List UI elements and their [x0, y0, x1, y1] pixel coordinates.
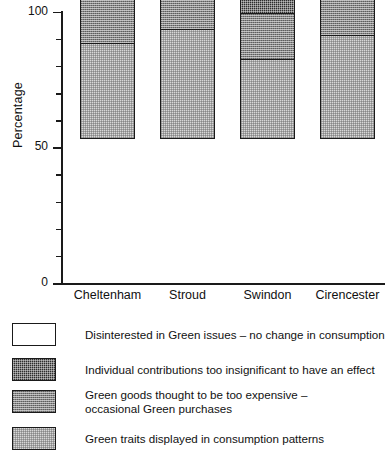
legend-label: Individual contributions too insignifica… [85, 363, 375, 377]
bar-segment-insignificant[interactable] [240, 0, 295, 14]
legend-swatch-mid [12, 390, 56, 413]
legend-swatch-white [12, 323, 56, 346]
bar-segment-green-traits[interactable] [320, 35, 375, 139]
bar-segment-green-traits[interactable] [80, 43, 135, 139]
bar-cheltenham[interactable] [80, 0, 135, 139]
bar-segment-too-expensive[interactable] [320, 0, 375, 36]
legend-label: Green goods thought to be too expensive … [85, 388, 307, 415]
legend-swatch-dark [12, 358, 56, 381]
stacked-bar-chart-figure: Percentage 050100 CheltenhamStroudSwindo… [0, 0, 387, 454]
legend-swatch-light [12, 427, 56, 450]
chart-legend: Disinterested in Green issues – no chang… [0, 310, 387, 454]
bar-stroud[interactable] [160, 0, 215, 139]
x-label-cirencester: Cirencester [293, 288, 387, 302]
bar-segment-too-expensive[interactable] [240, 13, 295, 60]
bar-cirencester[interactable] [320, 0, 375, 139]
plot-area: Percentage 050100 CheltenhamStroudSwindo… [0, 0, 387, 310]
legend-label: Disinterested in Green issues – no chang… [85, 328, 385, 342]
bar-segment-green-traits[interactable] [240, 59, 295, 139]
legend-label: Green traits displayed in consumption pa… [85, 432, 324, 446]
bar-swindon[interactable] [240, 0, 295, 139]
bar-segment-too-expensive[interactable] [80, 0, 135, 44]
bar-group [0, 0, 387, 310]
bar-segment-too-expensive[interactable] [160, 0, 215, 30]
bar-segment-green-traits[interactable] [160, 29, 215, 139]
